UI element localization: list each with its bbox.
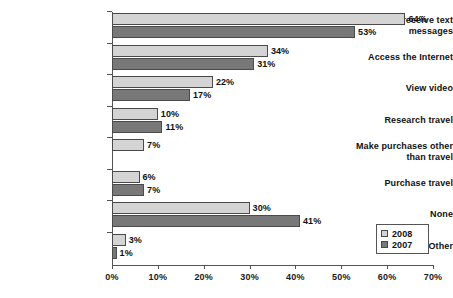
bar-value-label: 7%: [147, 184, 160, 196]
category-axis-tick: [107, 200, 112, 201]
chart-legend: 2008 2007: [376, 224, 429, 254]
legend-label-2007: 2007: [392, 240, 412, 250]
bar-value-label: 34%: [271, 45, 289, 57]
category-axis-tick: [107, 11, 112, 12]
category-label: Access the Internet: [347, 52, 453, 63]
bar-value-label: 53%: [358, 26, 376, 38]
bar-value-label: 10%: [161, 108, 179, 120]
category-label: Make purchases otherthan travel: [347, 141, 453, 163]
category-label: Purchase travel: [347, 178, 453, 189]
bar-2008: [112, 234, 126, 246]
bar-2008: [112, 202, 250, 214]
bar-2007: [112, 58, 254, 70]
x-axis-tick-label: 40%: [286, 272, 305, 282]
bar-value-label: 17%: [193, 89, 211, 101]
bar-value-label: 1%: [120, 247, 133, 259]
category-label-line: View video: [347, 83, 453, 94]
x-axis-tick: [433, 265, 434, 269]
bar-2008: [112, 171, 140, 183]
category-label-line: than travel: [347, 152, 453, 163]
bar-value-label: 31%: [257, 58, 275, 70]
x-axis-tick-label: 70%: [424, 272, 443, 282]
bar-2007: [112, 121, 162, 133]
bar-2008: [112, 108, 158, 120]
x-axis-tick-label: 60%: [378, 272, 397, 282]
bar-value-label: 3%: [129, 234, 142, 246]
legend-label-2008: 2008: [392, 229, 412, 239]
bar-value-label: 41%: [303, 215, 321, 227]
x-axis-tick: [341, 265, 342, 269]
bar-2008: [112, 13, 405, 25]
bar-2007: [112, 215, 300, 227]
category-label-line: None: [347, 209, 453, 220]
category-label-line: Purchase travel: [347, 178, 453, 189]
category-label: None: [347, 209, 453, 220]
x-axis-tick-label: 10%: [149, 272, 168, 282]
x-axis-tick: [387, 265, 388, 269]
legend-item-2007: 2007: [381, 239, 424, 250]
category-axis-line: [112, 265, 434, 266]
x-axis-tick: [204, 265, 205, 269]
bar-value-label: 30%: [253, 202, 271, 214]
bar-2008: [112, 139, 144, 151]
x-axis-tick-label: 20%: [194, 272, 213, 282]
legend-item-2008: 2008: [381, 228, 424, 239]
x-axis-tick-label: 50%: [332, 272, 351, 282]
category-axis-tick: [107, 137, 112, 138]
x-axis-tick-label: 0%: [105, 272, 118, 282]
legend-swatch-2008: [381, 230, 388, 237]
bar-value-label: 11%: [165, 121, 183, 133]
bar-value-label: 6%: [143, 171, 156, 183]
bar-value-label: 64%: [408, 13, 426, 25]
bar-2007: [112, 89, 190, 101]
bar-2007: [112, 247, 117, 259]
category-label: View video: [347, 83, 453, 94]
x-axis-tick: [158, 265, 159, 269]
x-axis-tick: [250, 265, 251, 269]
x-axis-tick: [295, 265, 296, 269]
category-label-line: Make purchases other: [347, 141, 453, 152]
bar-2007: [112, 26, 355, 38]
bar-2008: [112, 45, 268, 57]
bar-value-label: 7%: [147, 139, 160, 151]
bar-2008: [112, 76, 213, 88]
x-axis-tick: [112, 265, 113, 269]
category-axis-tick: [107, 74, 112, 75]
bar-chart: 0%10%20%30%40%50%60%70% Send/receive tex…: [0, 0, 453, 298]
bar-2007: [112, 184, 144, 196]
category-label-line: Access the Internet: [347, 52, 453, 63]
x-axis-tick-label: 30%: [240, 272, 259, 282]
category-label: Research travel: [347, 115, 453, 126]
bar-value-label: 22%: [216, 76, 234, 88]
legend-swatch-2007: [381, 241, 388, 248]
category-label-line: Research travel: [347, 115, 453, 126]
